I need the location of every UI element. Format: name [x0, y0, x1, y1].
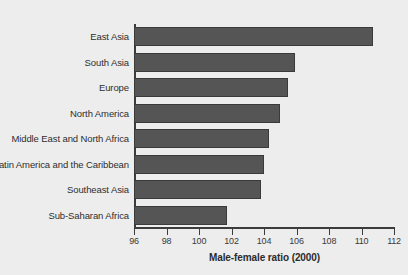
bar — [134, 206, 227, 225]
x-axis-tick-label: 100 — [185, 236, 213, 246]
bar-row: Sub-Saharan Africa — [0, 206, 408, 225]
category-label: Middle East and North Africa — [0, 129, 129, 148]
bar — [134, 155, 264, 174]
x-axis-tick-label: 98 — [153, 236, 181, 246]
x-axis-tick-label: 102 — [218, 236, 246, 246]
bar — [134, 53, 295, 72]
x-axis-tick-mark — [362, 229, 363, 235]
bar-row: Latin America and the Caribbean — [0, 155, 408, 174]
x-axis-tick-mark — [297, 229, 298, 235]
bar-row: Middle East and North Africa — [0, 129, 408, 148]
chart-figure: 9698100102104106108110112 East AsiaSouth… — [0, 0, 408, 275]
bar-row: East Asia — [0, 27, 408, 46]
category-label: Southeast Asia — [0, 180, 129, 199]
x-axis-tick-mark — [264, 229, 265, 235]
x-axis-tick-mark — [232, 229, 233, 235]
x-axis-tick-mark — [329, 229, 330, 235]
x-axis-tick-mark — [199, 229, 200, 235]
x-axis-tick-label: 106 — [283, 236, 311, 246]
x-axis-tick-label: 108 — [315, 236, 343, 246]
bar-row: Southeast Asia — [0, 180, 408, 199]
x-axis-tick-mark — [134, 229, 135, 235]
bar — [134, 104, 280, 123]
bar — [134, 129, 269, 148]
x-axis-title: Male-female ratio (2000) — [134, 252, 395, 263]
bar — [134, 78, 288, 97]
bar-row: North America — [0, 104, 408, 123]
category-label: Latin America and the Caribbean — [0, 155, 129, 174]
x-axis-tick-mark — [394, 229, 395, 235]
bar-row: Europe — [0, 78, 408, 97]
x-axis-tick-label: 110 — [348, 236, 376, 246]
category-label: South Asia — [0, 53, 129, 72]
category-label: Sub-Saharan Africa — [0, 206, 129, 225]
x-axis-tick-label: 112 — [380, 236, 408, 246]
chart-title-clipped-region — [0, 0, 408, 5]
bar — [134, 180, 261, 199]
category-label: East Asia — [0, 27, 129, 46]
category-label: Europe — [0, 78, 129, 97]
x-axis-tick-label: 104 — [250, 236, 278, 246]
x-axis-tick-mark — [167, 229, 168, 235]
bar-row: South Asia — [0, 53, 408, 72]
bar — [134, 27, 373, 46]
x-axis-tick-label: 96 — [120, 236, 148, 246]
category-label: North America — [0, 104, 129, 123]
